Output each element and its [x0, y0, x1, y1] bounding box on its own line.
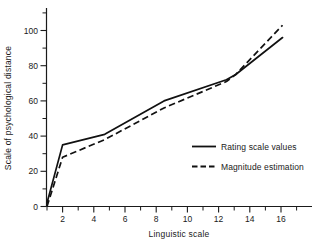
x-tick-label-6: 6	[123, 214, 128, 224]
x-tick-label-8: 8	[154, 214, 159, 224]
x-tick-label-4: 4	[91, 214, 96, 224]
legend-label-magnitude-estimation: Magnitude estimation	[221, 162, 304, 172]
line-chart: 0 20 40 60 80 100 2	[0, 0, 322, 242]
y-tick-label-40: 40	[29, 131, 39, 141]
y-tick-label-100: 100	[24, 26, 38, 36]
chart-figure: 0 20 40 60 80 100 2	[0, 0, 322, 242]
series-line-magnitude-estimation	[47, 25, 283, 206]
x-tick-label-14: 14	[245, 214, 255, 224]
x-tick-label-16: 16	[276, 214, 286, 224]
y-tick-label-20: 20	[29, 166, 39, 176]
y-tick-label-60: 60	[29, 96, 39, 106]
chart-legend: Rating scale values Magnitude estimation	[192, 142, 304, 172]
y-tick-label-80: 80	[29, 61, 39, 71]
y-axis-title: Scale of psychological distance	[3, 46, 13, 170]
x-axis-minor-ticks	[47, 207, 297, 211]
legend-label-rating-scale-values: Rating scale values	[221, 142, 297, 152]
y-tick-label-0: 0	[33, 202, 38, 212]
x-axis-title: Linguistic scale	[149, 229, 210, 239]
x-tick-label-2: 2	[60, 214, 65, 224]
x-tick-label-12: 12	[214, 214, 224, 224]
x-tick-label-10: 10	[183, 214, 193, 224]
